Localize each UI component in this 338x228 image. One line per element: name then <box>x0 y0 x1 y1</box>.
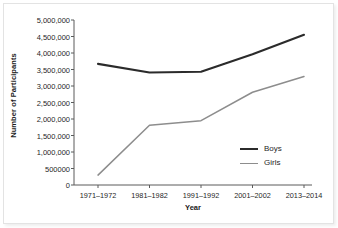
legend-label: Boys <box>264 145 282 153</box>
chart-legend: BoysGirls <box>240 142 282 170</box>
x-axis-tick-label: 1991–1992 <box>183 191 220 200</box>
legend-line-swatch <box>240 163 258 164</box>
x-axis-tick-label: 1971–1972 <box>80 191 117 200</box>
x-axis-tick-label: 2001–2002 <box>234 191 271 200</box>
x-axis-tick-label: 2013–2014 <box>286 191 323 200</box>
legend-item-boys[interactable]: Boys <box>240 142 282 156</box>
legend-item-girls[interactable]: Girls <box>240 156 282 170</box>
legend-label: Girls <box>264 159 280 167</box>
x-axis-title: Year <box>74 203 312 212</box>
x-axis-tick-labels: 1971–19721981–19821991–19922001–20022013… <box>0 0 338 228</box>
x-axis-tick-label: 1981–1982 <box>131 191 168 200</box>
legend-line-swatch <box>240 148 258 150</box>
line-chart-figure: Number of Participants 05000001,000,0001… <box>0 0 338 228</box>
